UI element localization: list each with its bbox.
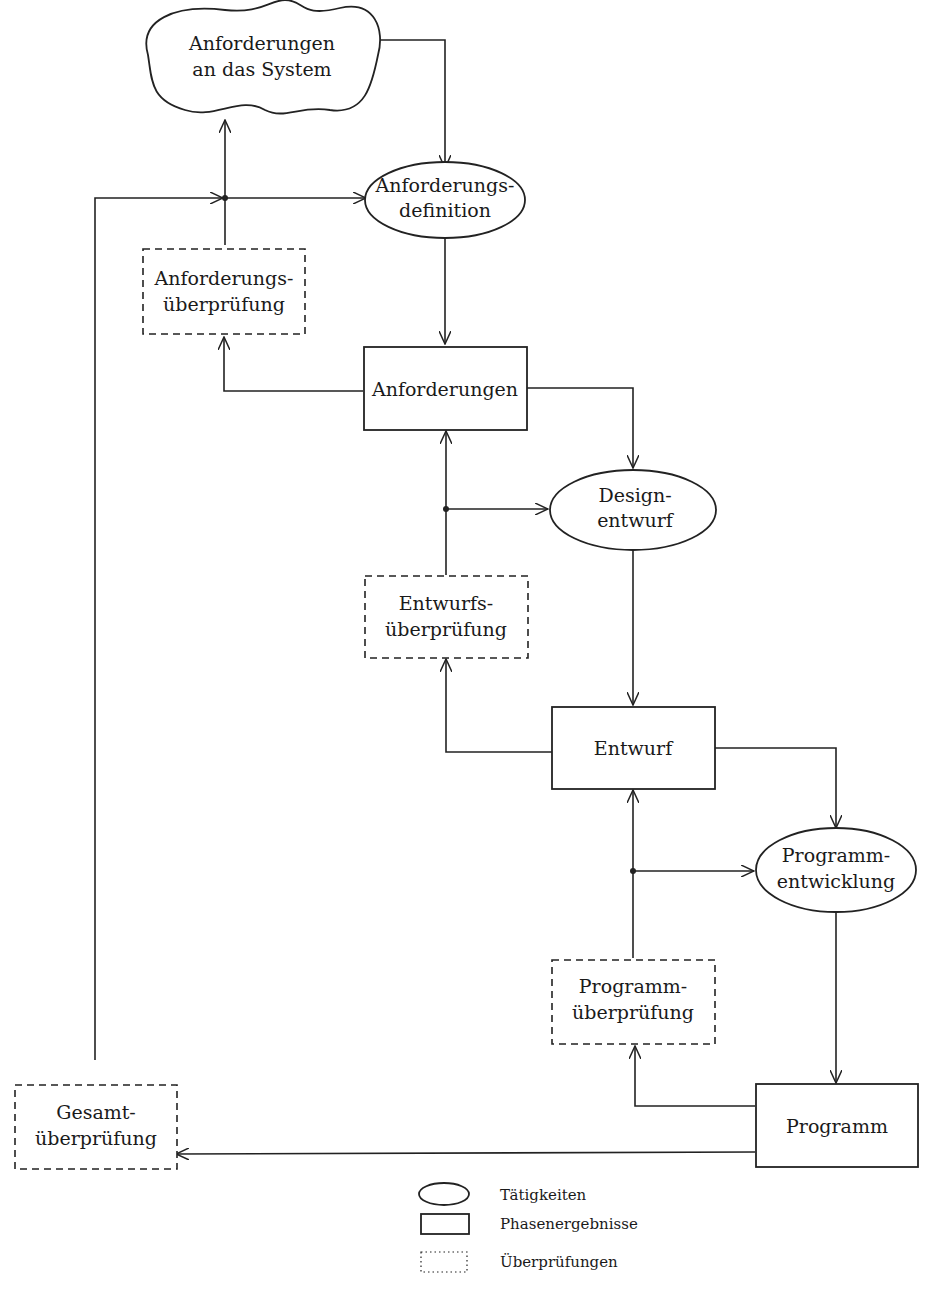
junction-dot bbox=[222, 195, 228, 201]
legend-item-reviews: Überprüfungen bbox=[421, 1252, 618, 1272]
node-label: Anforderungs- bbox=[154, 267, 294, 289]
node-label: Design- bbox=[598, 484, 671, 506]
node-anforderungsueberpruefung: Anforderungs- überprüfung bbox=[143, 249, 305, 334]
node-entwurfsueberpruefung: Entwurfs- überprüfung bbox=[365, 576, 528, 658]
node-label: überprüfung bbox=[35, 1127, 157, 1149]
node-label: an das System bbox=[192, 58, 331, 80]
node-anforderungen: Anforderungen bbox=[364, 347, 527, 430]
legend-item-phase-results: Phasenergebnisse bbox=[421, 1214, 638, 1234]
legend-label: Überprüfungen bbox=[500, 1253, 618, 1271]
edge-cloud-to-anf-def bbox=[378, 40, 445, 168]
node-label: überprüfung bbox=[163, 293, 285, 315]
node-gesamtueberpruefung: Gesamt- überprüfung bbox=[15, 1085, 177, 1169]
node-designentwurf: Design- entwurf bbox=[550, 470, 716, 550]
legend-item-activities: Tätigkeiten bbox=[419, 1183, 587, 1205]
edge-entwurf-to-prog-dev bbox=[715, 748, 836, 828]
legend: Tätigkeiten Phasenergebnisse Überprüfung… bbox=[419, 1183, 638, 1272]
node-programmueberpruefung: Programm- überprüfung bbox=[552, 960, 715, 1044]
node-label: Anforderungs- bbox=[375, 174, 515, 196]
node-label: Programm bbox=[786, 1115, 888, 1137]
node-label: entwurf bbox=[597, 509, 675, 531]
node-label: Programm- bbox=[782, 844, 890, 866]
node-label: Anforderungen bbox=[188, 32, 335, 54]
node-label: Entwurfs- bbox=[399, 592, 494, 614]
node-label: Programm- bbox=[579, 975, 687, 997]
edge-entwurf-to-ent-check bbox=[446, 659, 552, 752]
node-anforderungsdefinition: Anforderungs- definition bbox=[365, 162, 525, 238]
node-label: Entwurf bbox=[594, 737, 674, 759]
node-label: Gesamt- bbox=[56, 1101, 136, 1123]
node-entwurf: Entwurf bbox=[552, 707, 715, 789]
edge-anf-to-anf-check bbox=[224, 337, 363, 391]
process-diagram: Anforderungen an das System Anforderungs… bbox=[0, 0, 933, 1304]
review-box bbox=[365, 576, 528, 658]
node-label: überprüfung bbox=[385, 618, 507, 640]
edge-programm-to-prog-check bbox=[635, 1046, 755, 1106]
legend-label: Tätigkeiten bbox=[500, 1186, 587, 1204]
ellipse-icon bbox=[419, 1183, 469, 1205]
node-label: definition bbox=[399, 199, 491, 221]
junction-dot bbox=[630, 868, 636, 874]
edge-anf-to-design bbox=[527, 388, 633, 468]
node-label: Anforderungen bbox=[371, 378, 518, 400]
node-programmentwicklung: Programm- entwicklung bbox=[756, 828, 916, 912]
node-label: entwicklung bbox=[777, 870, 895, 892]
node-programm: Programm bbox=[756, 1084, 918, 1167]
node-anforderungen-an-das-system: Anforderungen an das System bbox=[146, 0, 380, 114]
cloud-shape bbox=[146, 0, 380, 114]
review-box bbox=[143, 249, 305, 334]
rect-icon bbox=[421, 1214, 469, 1234]
legend-label: Phasenergebnisse bbox=[500, 1215, 638, 1233]
dotted-rect-icon bbox=[421, 1252, 467, 1272]
junction-dot bbox=[443, 506, 449, 512]
edge-programm-to-gesamt bbox=[176, 1152, 755, 1154]
node-label: überprüfung bbox=[572, 1001, 694, 1023]
